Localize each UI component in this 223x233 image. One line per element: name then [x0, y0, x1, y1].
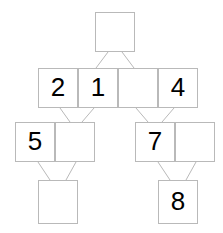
diagram-canvas: 214578	[0, 0, 223, 233]
edge-n1-n6	[60, 108, 70, 122]
node-5[interactable]: 5	[15, 122, 55, 162]
edge-n6-n9	[66, 162, 76, 180]
edge-n5-n9	[38, 162, 50, 180]
node-label: 4	[171, 74, 185, 100]
edge-n0-n3	[122, 52, 134, 68]
node-label: 2	[51, 74, 65, 100]
node-label: 7	[148, 128, 162, 154]
node-8[interactable]: 8	[158, 180, 198, 224]
edge-n4-n7	[162, 108, 174, 122]
node-empty-n3[interactable]	[118, 68, 158, 108]
node-empty-n0[interactable]	[95, 12, 135, 52]
node-1[interactable]: 1	[78, 68, 118, 108]
node-empty-n8[interactable]	[175, 122, 215, 162]
edge-n7-n10	[158, 162, 170, 180]
edge-n0-n2	[96, 52, 108, 68]
node-label: 8	[171, 188, 185, 214]
node-2[interactable]: 2	[38, 68, 78, 108]
node-empty-n6[interactable]	[55, 122, 95, 162]
node-label: 1	[91, 74, 105, 100]
node-empty-n9[interactable]	[38, 180, 78, 224]
node-label: 5	[28, 128, 42, 154]
node-4[interactable]: 4	[158, 68, 198, 108]
edge-n2-n6	[82, 108, 94, 122]
edge-n8-n10	[186, 162, 196, 180]
edge-n3-n7	[136, 108, 148, 122]
node-7[interactable]: 7	[135, 122, 175, 162]
